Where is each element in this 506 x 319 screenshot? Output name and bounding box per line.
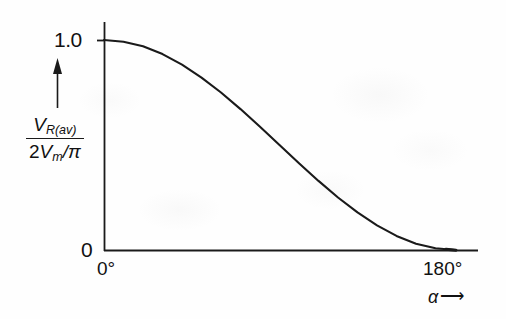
y-denominator-coefficient: 2: [29, 141, 40, 162]
y-numerator-subscript: R(av): [46, 123, 77, 137]
up-arrow-icon: [53, 58, 62, 108]
x-axis-title: α ⟶: [428, 288, 462, 306]
data-curve-cosine: [104, 40, 455, 250]
y-numerator-symbol: V: [33, 114, 46, 135]
curve-endpoint-nub: [446, 249, 456, 250]
figure-canvas: 1.0 0 0° 180° α ⟶ VR(av) 2Vm/π: [0, 0, 506, 319]
x-tick-label-right: 180°: [423, 259, 462, 278]
y-axis-title-denominator: 2Vm/π: [26, 139, 84, 165]
y-tick-label-top: 1.0: [54, 29, 82, 50]
right-arrow-icon: ⟶: [440, 288, 462, 305]
y-denominator-symbol: V: [40, 141, 53, 162]
x-tick-label-left: 0°: [97, 259, 115, 278]
y-denominator-subscript: m: [52, 150, 62, 164]
x-axis-symbol: α: [428, 288, 438, 306]
y-denominator-tail: /π: [63, 141, 81, 162]
y-axis-title-numerator: VR(av): [26, 114, 84, 139]
y-axis-title: VR(av) 2Vm/π: [26, 114, 84, 166]
y-tick-label-bottom: 0: [81, 239, 93, 260]
